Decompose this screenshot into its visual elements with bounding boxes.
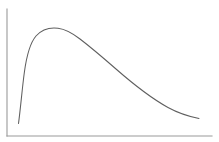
- chart-figure: [0, 0, 219, 142]
- plot-area: [0, 0, 219, 142]
- plot-background: [0, 0, 219, 142]
